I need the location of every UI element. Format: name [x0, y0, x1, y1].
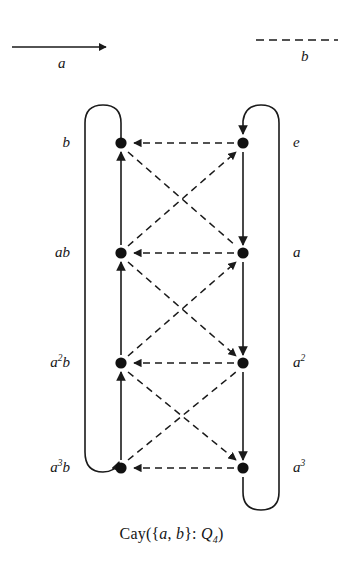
- legend-label-b: b: [301, 48, 309, 65]
- cayley-graph-figure: a b b ab a2b a3b e a a2 a3 Cay({a, b}: Q…: [0, 0, 343, 582]
- vertex-label-b: b: [38, 135, 70, 150]
- edge-a-left-wrap: [85, 105, 121, 472]
- vertex-a: [237, 247, 248, 258]
- edges-b-diagonal: [128, 152, 236, 460]
- vertex-e: [237, 137, 248, 148]
- caption-group-symbol: Q: [201, 525, 213, 542]
- caption-middle: }:: [184, 525, 201, 542]
- vertex-a2b: [115, 357, 126, 368]
- vertex-label-e: e: [293, 135, 300, 150]
- vertex-a3: [237, 462, 248, 473]
- caption-generator-b: b: [176, 525, 184, 542]
- caption-generator-a: a: [159, 525, 167, 542]
- edges-b-horizontal: [134, 143, 234, 468]
- vertex-label-ab: ab: [28, 245, 70, 260]
- vertex-label-a2b: a2b: [22, 355, 70, 370]
- caption-separator: ,: [168, 525, 176, 542]
- vertices: [115, 137, 248, 473]
- vertex-label-a3b: a3b: [22, 460, 70, 475]
- vertex-label-a: a: [293, 245, 301, 260]
- legend-label-a: a: [58, 55, 66, 72]
- vertex-ab: [115, 247, 126, 258]
- edge-a-right-wrap: [243, 105, 279, 510]
- vertex-a2: [237, 357, 248, 368]
- vertex-label-a3: a3: [293, 460, 305, 475]
- vertex-label-a2: a2: [293, 355, 305, 370]
- vertex-b: [115, 137, 126, 148]
- caption-prefix: Cay({: [120, 525, 160, 542]
- graph-canvas: [0, 0, 343, 582]
- vertex-a3b: [115, 462, 126, 473]
- figure-caption: Cay({a, b}: Q4): [0, 525, 343, 543]
- caption-suffix: ): [218, 525, 224, 542]
